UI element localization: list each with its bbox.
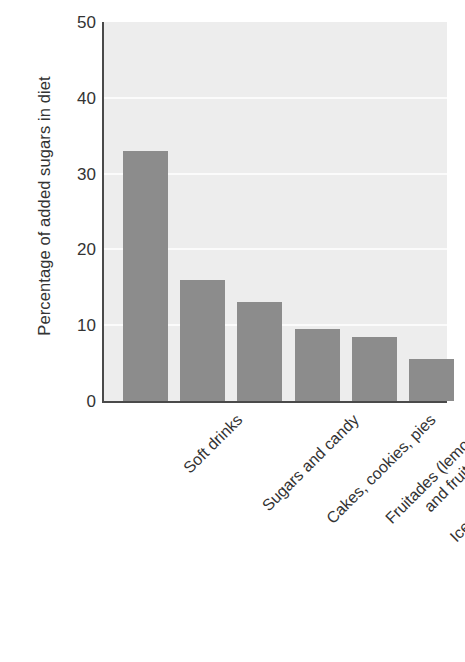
bar bbox=[237, 302, 282, 401]
y-tick-label: 30 bbox=[52, 165, 96, 182]
x-category-label: Soft drinks bbox=[180, 411, 247, 478]
y-axis-tick-labels: 01020304050 bbox=[52, 0, 96, 410]
bar bbox=[409, 359, 454, 401]
bar bbox=[123, 151, 168, 401]
y-tick-label: 20 bbox=[52, 241, 96, 258]
x-axis-category-labels: Soft drinksSugars and candyCakes, cookie… bbox=[0, 401, 465, 662]
bar bbox=[352, 337, 397, 401]
y-tick-label: 50 bbox=[52, 14, 96, 31]
bar-series bbox=[104, 22, 447, 401]
chart-page: { "chart_data": { "type": "bar", "title"… bbox=[0, 0, 465, 662]
y-tick-label: 10 bbox=[52, 317, 96, 334]
y-tick-label: 40 bbox=[52, 89, 96, 106]
plot-area bbox=[102, 22, 447, 403]
bar bbox=[295, 329, 340, 401]
x-category-label-line: Soft drinks bbox=[180, 411, 245, 476]
bar bbox=[180, 280, 225, 401]
